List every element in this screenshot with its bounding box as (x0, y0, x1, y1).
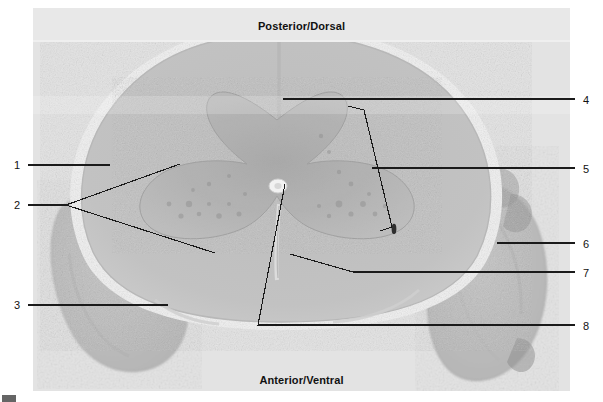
anatomy-figure: Posterior/Dorsal Anterior/Ventral 1 2 3 … (0, 0, 603, 402)
callout-number-5[interactable]: 5 (583, 164, 589, 175)
micrograph-plate: Posterior/Dorsal Anterior/Ventral (33, 8, 570, 391)
callout-number-3[interactable]: 3 (14, 300, 20, 311)
scan-band-divider (33, 40, 570, 42)
callout-number-6[interactable]: 6 (583, 239, 589, 250)
callout-number-1[interactable]: 1 (14, 160, 20, 171)
tissue-artifact (392, 224, 397, 234)
spinal-cord-specimen (33, 8, 570, 391)
callout-number-8[interactable]: 8 (583, 321, 589, 332)
central-canal (269, 179, 287, 193)
page-corner-mark-icon (2, 395, 16, 402)
callout-number-7[interactable]: 7 (583, 268, 589, 279)
scan-band-mid (33, 96, 570, 114)
orientation-label-posterior: Posterior/Dorsal (33, 20, 570, 32)
callout-number-2[interactable]: 2 (14, 200, 20, 211)
callout-number-4[interactable]: 4 (583, 95, 589, 106)
orientation-label-anterior: Anterior/Ventral (33, 374, 570, 386)
